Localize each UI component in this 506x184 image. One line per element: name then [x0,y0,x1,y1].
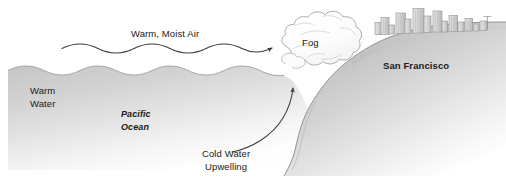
ocean-water-body [8,66,314,170]
diagram-canvas [0,0,506,184]
fog-diagram: Warm, Moist Air Fog San Francisco Warm W… [0,0,506,184]
city-skyline [375,9,492,35]
warm-moist-air-arrow [62,44,272,53]
